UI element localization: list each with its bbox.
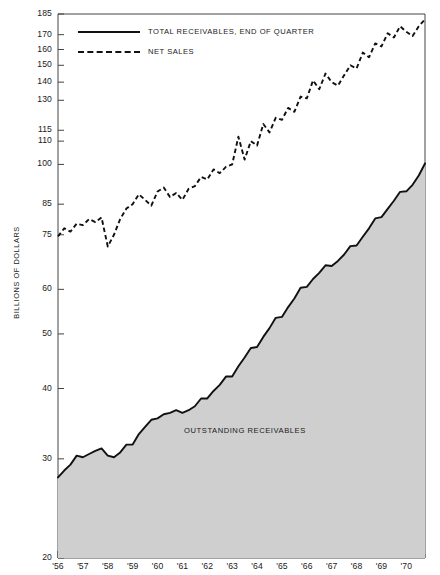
legend-item-total-receivables: TOTAL RECEIVABLES, END OF QUARTER <box>78 27 314 36</box>
legend-item-net-sales: NET SALES <box>78 47 194 56</box>
chart-root: BILLIONS OF DOLLARS 20304050607585100110… <box>0 0 440 575</box>
legend-swatch-solid-icon <box>78 31 140 33</box>
legend-label-total-receivables: TOTAL RECEIVABLES, END OF QUARTER <box>148 27 314 36</box>
plot-canvas <box>0 0 440 575</box>
legend-swatch-dashed-icon <box>78 51 140 53</box>
legend-label-net-sales: NET SALES <box>148 47 194 56</box>
area-annotation-outstanding-receivables: OUTSTANDING RECEIVABLES <box>184 426 306 435</box>
